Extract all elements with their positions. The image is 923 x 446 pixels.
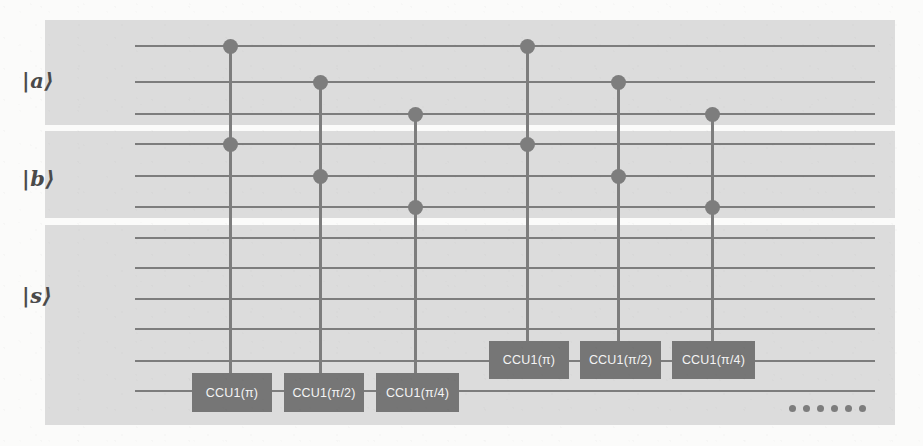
qubit-wire-a-1: [135, 45, 875, 47]
control-dot-col-4-1: [520, 39, 535, 54]
register-label-a: |a⟩: [22, 68, 54, 93]
qubit-wire-s-4: [135, 328, 875, 330]
gate-box-col-4[interactable]: CCU1(π): [489, 341, 569, 379]
control-dot-col-2-1: [313, 75, 328, 90]
gate-box-col-6[interactable]: CCU1(π/4): [672, 341, 755, 379]
control-dot-col-4-2: [520, 137, 535, 152]
control-line-col-4: [526, 45, 529, 360]
control-line-col-2: [319, 81, 322, 390]
control-dot-col-3-2: [408, 200, 423, 215]
control-line-col-6: [711, 113, 714, 360]
continuation-ellipsis: [789, 405, 866, 412]
register-label-s: |s⟩: [22, 283, 53, 308]
ellipsis-dot: [817, 405, 824, 412]
register-band-a: [45, 20, 895, 125]
ellipsis-dot: [789, 405, 796, 412]
control-dot-col-1-2: [223, 137, 238, 152]
quantum-circuit-diagram: |a⟩|b⟩|s⟩CCU1(π)CCU1(π/2)CCU1(π/4)CCU1(π…: [0, 0, 923, 446]
ellipsis-dot: [859, 405, 866, 412]
gate-box-col-1[interactable]: CCU1(π): [192, 373, 272, 412]
qubit-wire-b-3: [135, 206, 875, 208]
register-label-b: |b⟩: [22, 166, 55, 191]
qubit-wire-s-3: [135, 298, 875, 300]
ellipsis-dot: [803, 405, 810, 412]
control-dot-col-5-1: [611, 75, 626, 90]
qubit-wire-b-2: [135, 175, 875, 177]
control-line-col-3: [414, 113, 417, 390]
gate-box-col-3[interactable]: CCU1(π/4): [376, 373, 459, 412]
control-dot-col-6-2: [705, 200, 720, 215]
control-dot-col-2-2: [313, 169, 328, 184]
control-dot-col-6-1: [705, 107, 720, 122]
qubit-wire-b-1: [135, 143, 875, 145]
control-dot-col-3-1: [408, 107, 423, 122]
qubit-wire-s-1: [135, 237, 875, 239]
control-line-col-1: [229, 45, 232, 390]
gate-box-col-2[interactable]: CCU1(π/2): [284, 373, 364, 412]
control-dot-col-5-2: [611, 169, 626, 184]
ellipsis-dot: [845, 405, 852, 412]
qubit-wire-a-2: [135, 81, 875, 83]
register-band-s: [45, 225, 895, 425]
qubit-wire-s-2: [135, 267, 875, 269]
gate-box-col-5[interactable]: CCU1(π/2): [580, 341, 661, 379]
ellipsis-dot: [831, 405, 838, 412]
control-dot-col-1-1: [223, 39, 238, 54]
qubit-wire-a-3: [135, 113, 875, 115]
control-line-col-5: [617, 81, 620, 360]
